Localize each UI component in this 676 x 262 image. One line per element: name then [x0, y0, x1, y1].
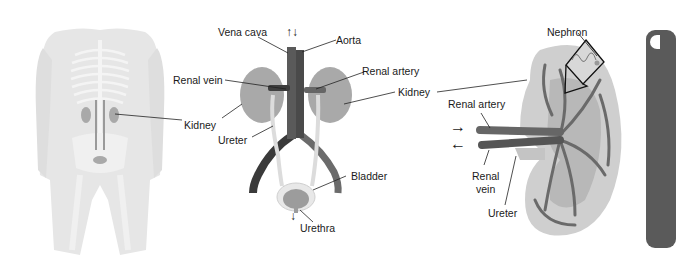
- label-renal-vein: Renal vein: [173, 74, 223, 86]
- label-vena-cava: Vena cava: [218, 26, 267, 38]
- artery-in-arrow-icon: →: [450, 121, 466, 133]
- label-xs-renal-vein-line1: Renal: [472, 170, 499, 182]
- label-urethra: Urethra: [300, 222, 335, 234]
- side-panel-edge: [646, 30, 676, 248]
- vein-out-arrow-icon: ←: [450, 138, 466, 150]
- label-xs-renal-artery: Renal artery: [448, 98, 505, 110]
- label-aorta: Aorta: [336, 34, 361, 46]
- body-silhouette: [36, 28, 165, 255]
- label-nephron: Nephron: [547, 26, 587, 38]
- label-kidney-right: Kidney: [398, 86, 430, 98]
- label-bladder: Bladder: [351, 170, 387, 182]
- urinary-system: [240, 47, 352, 213]
- label-body-kidney: Kidney: [184, 119, 216, 131]
- urethra-flow-arrow-icon: ↓: [290, 210, 296, 222]
- vessel-flow-arrows-icon: ↑↓: [286, 26, 298, 38]
- label-xs-renal-vein-line2: vein: [476, 183, 495, 195]
- label-ureter: Ureter: [218, 134, 247, 146]
- label-renal-artery: Renal artery: [362, 65, 419, 77]
- side-panel-notch: [650, 35, 660, 49]
- label-xs-ureter: Ureter: [488, 207, 517, 219]
